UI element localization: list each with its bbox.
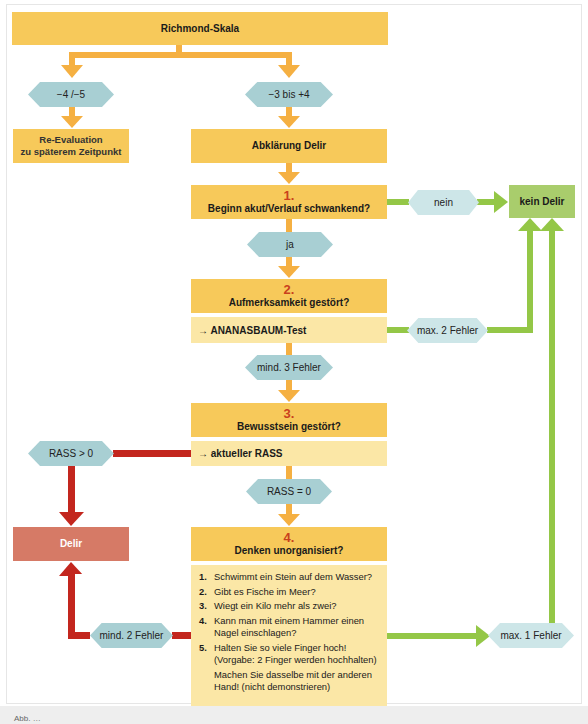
decision-label: −4 /−5	[57, 89, 85, 100]
figure-caption: Abb. …	[0, 706, 588, 724]
decision-label: max. 1 Fehler	[500, 630, 561, 641]
question-text: Schwimmt ein Stein auf dem Wasser?	[214, 571, 381, 584]
question-item: Machen Sie dasselbe mit der anderen Hand…	[199, 669, 381, 694]
decision-label: RASS = 0	[267, 486, 311, 497]
step-4-box: 4. Denken unorganisiert?	[191, 527, 387, 561]
question-text: Gibt es Fische im Meer?	[214, 586, 381, 599]
step-number: 2.	[284, 283, 295, 297]
question-number: 4.	[199, 615, 214, 640]
delirium-assessment-box: Abklärung Delir	[191, 129, 387, 163]
question-text: Kann man mit einem Hammer einen Nagel ei…	[214, 615, 381, 640]
decision-rass-minus4-5: −4 /−5	[28, 82, 114, 107]
question-item: 3. Wiegt ein Kilo mehr als zwei?	[199, 600, 381, 613]
ananasbaum-test-box: → ANANASBAUM-Test	[191, 317, 387, 343]
step-1-box: 1. Beginn akut/Verlauf schwankend?	[191, 185, 387, 219]
step-number: 1.	[284, 189, 295, 203]
decision-label: mind. 3 Fehler	[257, 362, 321, 373]
decision-label: max. 2 Fehler	[417, 325, 478, 336]
question-text: Machen Sie dasselbe mit der anderen Hand…	[214, 669, 381, 694]
decision-rass-equal-0: RASS = 0	[246, 479, 332, 504]
decision-label: ja	[286, 239, 294, 250]
reevaluation-box: Re-Evaluation zu späterem Zeitpunkt	[13, 129, 129, 163]
question-item: 4. Kann man mit einem Hammer einen Nagel…	[199, 615, 381, 640]
no-delirium-box: kein Delir	[509, 185, 575, 218]
step-question: Beginn akut/Verlauf schwankend?	[208, 203, 370, 215]
richmond-scale-title: Richmond-Skala	[161, 23, 239, 35]
no-delirium-label: kein Delir	[519, 196, 564, 208]
question-item: 5. Halten Sie so viele Finger hoch! (Vor…	[199, 642, 381, 667]
question-item: 2. Gibt es Fische im Meer?	[199, 586, 381, 599]
step-question: Aufmerksamkeit gestört?	[229, 297, 350, 309]
question-number: 5.	[199, 642, 214, 667]
decision-yes: ja	[247, 232, 333, 257]
decision-label: −3 bis +4	[268, 89, 309, 100]
decision-max-2-errors: max. 2 Fehler	[407, 318, 488, 343]
step-question: Bewusstsein gestört?	[237, 421, 341, 433]
decision-no: nein	[408, 190, 479, 215]
decision-label: mind. 2 Fehler	[100, 630, 164, 641]
question-number	[199, 669, 214, 694]
decision-label: nein	[434, 197, 453, 208]
step-question: Denken unorganisiert?	[235, 545, 344, 557]
question-number: 1.	[199, 571, 214, 584]
question-number: 3.	[199, 600, 214, 613]
decision-min-3-errors: mind. 3 Fehler	[245, 355, 333, 380]
question-text: Halten Sie so viele Finger hoch! (Vorgab…	[214, 642, 381, 667]
disorganized-thinking-questions: 1. Schwimmt ein Stein auf dem Wasser? 2.…	[191, 565, 387, 707]
step-number: 3.	[284, 407, 295, 421]
decision-max-1-error: max. 1 Fehler	[488, 623, 574, 648]
test-label: → ANANASBAUM-Test	[198, 325, 306, 336]
decision-rass-minus3-plus4: −3 bis +4	[245, 82, 333, 107]
question-item: 1. Schwimmt ein Stein auf dem Wasser?	[199, 571, 381, 584]
question-number: 2.	[199, 586, 214, 599]
step-number: 4.	[284, 531, 295, 545]
question-text: Wiegt ein Kilo mehr als zwei?	[214, 600, 381, 613]
delirium-assessment-label: Abklärung Delir	[252, 140, 326, 152]
reevaluation-line2: zu späterem Zeitpunkt	[21, 146, 122, 158]
delirium-label: Delir	[60, 538, 82, 550]
step-2-box: 2. Aufmerksamkeit gestört?	[191, 279, 387, 313]
reevaluation-line1: Re-Evaluation	[39, 134, 102, 146]
step-3-box: 3. Bewusstsein gestört?	[191, 403, 387, 437]
decision-min-2-errors: mind. 2 Fehler	[90, 623, 173, 648]
richmond-scale-box: Richmond-Skala	[12, 12, 388, 45]
decision-rass-greater-0: RASS > 0	[28, 441, 114, 466]
delirium-box: Delir	[13, 527, 129, 561]
current-rass-box: → aktueller RASS	[191, 441, 387, 466]
test-label: → aktueller RASS	[198, 448, 282, 459]
decision-label: RASS > 0	[49, 448, 93, 459]
